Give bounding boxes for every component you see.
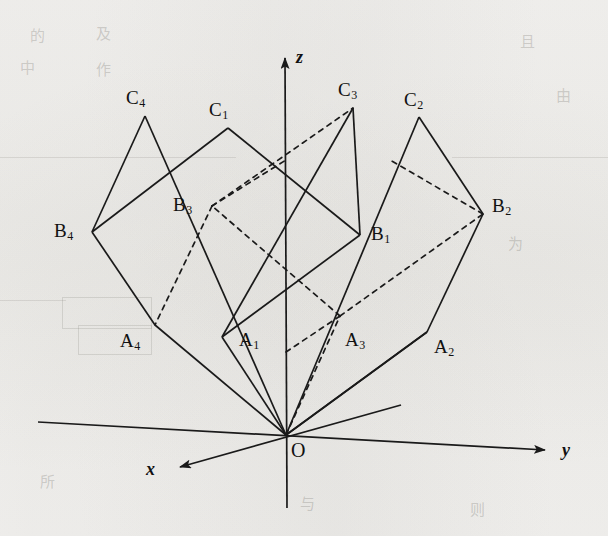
vertex-label-B3: B3 bbox=[173, 195, 192, 214]
origin-label: O bbox=[291, 440, 305, 460]
edge-C3-B1 bbox=[353, 108, 360, 235]
edge-A4-B4 bbox=[92, 232, 155, 325]
edge-B3-upper-right bbox=[212, 160, 286, 206]
vertex-label-A1: A1 bbox=[239, 330, 259, 349]
rhombus-OA3B3C3-visible-edges bbox=[222, 108, 427, 435]
edge-O-A4 bbox=[155, 325, 286, 435]
edge-B2-C2-hidden bbox=[390, 160, 483, 214]
vertex-label-C3: C3 bbox=[338, 80, 357, 99]
edge-B3-A4-hidden bbox=[155, 206, 212, 325]
edge-B2-C2 bbox=[419, 117, 483, 214]
figure-page: 的 及 中 作 且 由 为 所 与 则 bbox=[0, 0, 608, 536]
vertex-label-A2: A2 bbox=[434, 337, 454, 356]
vertex-label-A3: A3 bbox=[345, 330, 365, 349]
vertex-label-B4: B4 bbox=[54, 221, 73, 240]
rhombus-OA3B3C3 bbox=[155, 108, 483, 435]
edge-A2-B2 bbox=[427, 214, 483, 332]
vertex-label-C1: C1 bbox=[209, 100, 228, 119]
edge-A3-B2 bbox=[340, 214, 483, 316]
rhombus-OA1B1C1 bbox=[92, 128, 360, 435]
edge-A1-B1 bbox=[222, 235, 360, 337]
edge-A3-B3 bbox=[212, 206, 340, 316]
vertex-label-A4: A4 bbox=[120, 331, 140, 350]
edge-C3-lower-left bbox=[222, 108, 353, 337]
vertex-label-B2: B2 bbox=[492, 196, 511, 215]
rhombus-OA2B2C2 bbox=[286, 117, 483, 435]
vertex-label-C4: C4 bbox=[126, 88, 145, 107]
edge-C4-O bbox=[145, 116, 286, 435]
vertex-label-C2: C2 bbox=[404, 90, 423, 109]
vertex-label-B1: B1 bbox=[371, 224, 390, 243]
y-axis-label: y bbox=[562, 441, 570, 459]
z-axis-line bbox=[285, 58, 287, 508]
z-axis-label: z bbox=[296, 48, 303, 66]
x-axis-label: x bbox=[146, 460, 155, 478]
edge-B3-C3 bbox=[212, 108, 353, 206]
edge-B4-C4 bbox=[92, 116, 145, 232]
